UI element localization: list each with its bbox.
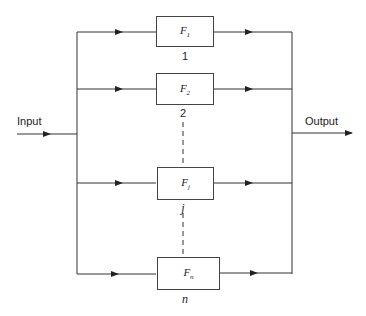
block-f1-label: F1 xyxy=(156,24,214,39)
parallel-system-diagram: Input Output F1 1 F2 2 Fj j Fn n xyxy=(0,0,366,316)
block-subscript: 2 xyxy=(187,89,191,97)
output-label: Output xyxy=(305,115,338,127)
block-f2-index: 2 xyxy=(173,107,193,119)
block-subscript: 1 xyxy=(187,31,191,39)
block-fn-label: Fn xyxy=(157,266,220,281)
block-fn-index: n xyxy=(175,292,195,307)
block-fj-index: j xyxy=(173,201,193,216)
block-f2-label: F2 xyxy=(156,82,214,97)
block-name: F xyxy=(180,24,187,36)
block-subscript: n xyxy=(190,273,194,281)
block-name: F xyxy=(180,82,187,94)
block-fj-label: Fj xyxy=(157,176,214,191)
block-subscript: j xyxy=(188,183,190,191)
block-f1-index: 1 xyxy=(175,50,195,62)
block-name: F xyxy=(181,176,188,188)
input-label: Input xyxy=(17,115,41,127)
